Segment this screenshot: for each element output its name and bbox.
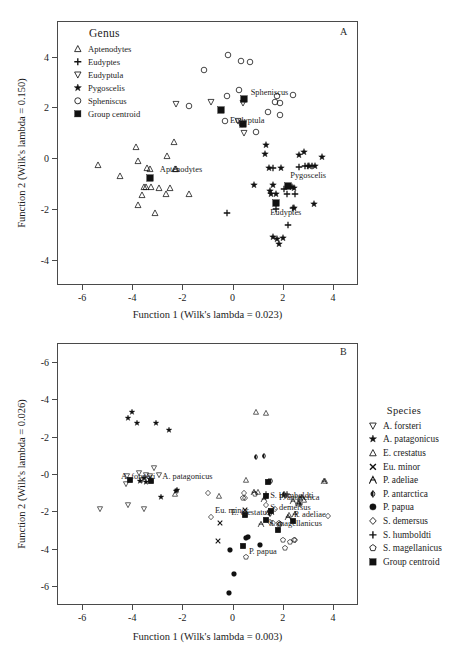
x-tick (333, 605, 334, 610)
legend-item-label: S. magellanicus (383, 543, 442, 553)
cluster-annotation: Spheniscus (251, 87, 289, 96)
legend-item-label: S. humboldti (383, 530, 431, 540)
legend-species: Species A. forsteriA. patagonicusE. cres… (366, 405, 442, 569)
legend-item-label: A. patagonicus (383, 434, 439, 444)
legend-item: E. crestatus (366, 446, 442, 460)
plus-icon (71, 55, 84, 68)
y-tick (52, 362, 57, 363)
legend-item-label: Eudyptes (88, 57, 120, 67)
legend-item-label: A. forsteri (383, 421, 421, 431)
x-tick (82, 285, 83, 290)
legend-item-label: Eudyptula (88, 70, 123, 80)
triangle-down-open-icon (366, 419, 379, 432)
x-tick-label: -2 (178, 292, 186, 303)
y-tick-label: 4 (29, 51, 49, 62)
x-tick (333, 285, 334, 290)
legend-item-label: Aptenodytes (88, 44, 131, 54)
legend-title-species: Species (366, 405, 442, 416)
legend-genus: Genus AptenodytesEudyptesEudyptulaPygosc… (71, 27, 140, 120)
legend-item: P. papua (366, 501, 442, 515)
y-tick-label: -0 (29, 469, 49, 480)
y-tick (52, 474, 57, 475)
circle-open-icon (71, 94, 84, 107)
legend-item: S. magellanicus (366, 541, 442, 555)
legend-item: A. patagonicus (366, 433, 442, 447)
cluster-annotation: S. humboldti (270, 490, 313, 499)
legend-item-label: S. demersus (383, 516, 428, 526)
legend-item-label: E. crestatus (383, 448, 426, 458)
cross-icon (366, 460, 379, 473)
x-tick-label: -2 (178, 612, 186, 623)
legend-item: Eu. minor (366, 460, 442, 474)
cluster-annotation: P. papua (249, 546, 277, 555)
y-tick (52, 209, 57, 210)
cluster-annotation: Pygoscelis (290, 171, 326, 180)
legend-item: P. antarctica (366, 487, 442, 501)
y-tick-label: 0 (29, 153, 49, 164)
diamond-open-icon (366, 514, 379, 527)
y-tick-label: -4 (29, 254, 49, 265)
star-icon (366, 433, 379, 446)
x-tick-label: -6 (78, 612, 86, 623)
legend-item: Pygoscelis (71, 81, 140, 94)
plus-icon (366, 528, 379, 541)
y-tick (52, 511, 57, 512)
panel-letter-a: A (340, 26, 347, 37)
legend-title-genus: Genus (71, 27, 140, 39)
legend-item-label: Group centroid (88, 109, 140, 119)
x-tick-label: -4 (128, 612, 136, 623)
y-tick-label: -2 (29, 203, 49, 214)
legend-item-label: Pygoscelis (88, 83, 125, 93)
legend-item: P. adeliae (366, 473, 442, 487)
y-tick (52, 586, 57, 587)
y-tick (52, 158, 57, 159)
x-tick-label: 2 (280, 292, 285, 303)
y-tick (52, 57, 57, 58)
panel-letter-b: B (340, 346, 347, 357)
legend-item-label: Group centroid (383, 557, 440, 567)
y-tick-label: -6 (29, 581, 49, 592)
cluster-annotation: Eudyptula (230, 116, 264, 125)
y-tick (52, 399, 57, 400)
cluster-annotation: A. patagonicus (162, 471, 212, 480)
legend-item: Eudyptula (71, 68, 140, 81)
x-tick (132, 285, 133, 290)
legend-item-label: P. papua (383, 502, 414, 512)
y-tick (52, 260, 57, 261)
y-tick-label: -4 (29, 543, 49, 554)
cluster-annotation: S. demersus (270, 503, 310, 512)
legend-item: A. forsteri (366, 419, 442, 433)
y-tick-label: 2 (29, 102, 49, 113)
x-tick (182, 605, 183, 610)
pentagon-open-icon (366, 542, 379, 555)
x-tick-label: -4 (128, 292, 136, 303)
antarctica-icon (366, 487, 379, 500)
x-axis-title-b: Function 1 (Wilk's lambda = 0.003) (57, 631, 358, 642)
legend-item: Spheniscus (71, 94, 140, 107)
cluster-annotation: Eu. minor (215, 506, 249, 515)
legend-item-label: Eu. minor (383, 462, 420, 472)
x-tick (283, 605, 284, 610)
legend-item: S. humboldti (366, 528, 442, 542)
adeliae-icon (366, 474, 379, 487)
legend-item: Aptenodytes (71, 42, 140, 55)
cluster-annotation: Eudyptes (270, 207, 301, 216)
cluster-annotation: Aptenodytes (160, 164, 202, 173)
y-tick (52, 549, 57, 550)
star-icon (71, 81, 84, 94)
y-tick-label: -6 (29, 356, 49, 367)
y-tick-label: -2 (29, 431, 49, 442)
x-tick (132, 605, 133, 610)
legend-item: Group centroid (366, 555, 442, 569)
triangle-up-open-icon (366, 446, 379, 459)
y-tick-label: -2 (29, 506, 49, 517)
x-tick-label: 2 (280, 612, 285, 623)
square-filled-icon (71, 107, 84, 120)
triangle-up-open-icon (71, 42, 84, 55)
y-axis-title-a: Function 2 (Wilk's lambda = 0.150) (16, 21, 27, 285)
circle-filled-icon (366, 501, 379, 514)
x-axis-title-a: Function 1 (Wilk's lambda = 0.023) (57, 309, 358, 320)
x-tick-label: 0 (230, 292, 235, 303)
legend-item-label: P. adeliae (383, 475, 418, 485)
x-tick (233, 285, 234, 290)
